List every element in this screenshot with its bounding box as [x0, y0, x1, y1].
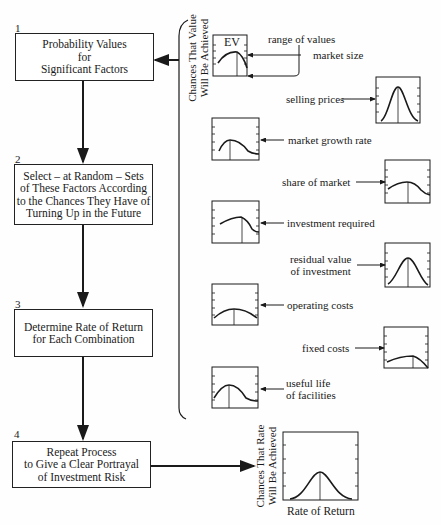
step-box-3: Determine Rate of Return for Each Combin…	[14, 309, 153, 357]
factor-label-operating-costs: operating costs	[287, 299, 353, 311]
factor-label-useful-life: useful life of facilities	[286, 377, 336, 401]
step-text-3: Determine Rate of Return for Each Combin…	[24, 321, 143, 346]
factor-label-selling-prices: selling prices	[286, 93, 344, 105]
factor-label-market-size: market size	[313, 49, 363, 61]
step-text-1: Probability Values for Significant Facto…	[41, 38, 128, 76]
factor-label-residual-value: residual value of investment	[290, 253, 351, 277]
factor-axis-label: Chances That Value Will Be Achieved	[187, 8, 211, 108]
step-text-2: Select – at Random – Sets of These Facto…	[17, 170, 151, 220]
factor-label-investment-required: investment required	[287, 217, 375, 229]
factor-label-share-of-market: share of market	[282, 176, 350, 188]
chart-share-of-market	[385, 160, 430, 203]
result-xlabel: Rate of Return	[287, 505, 355, 517]
factor-label-market-growth-rate: market growth rate	[288, 134, 372, 146]
chart-useful-life	[212, 367, 258, 408]
range-of-values-label: range of values	[268, 33, 335, 45]
chart-selling-prices	[376, 77, 420, 123]
ev-label: EV	[224, 36, 240, 48]
step-box-1: Probability Values for Significant Facto…	[15, 33, 154, 81]
factor-label-fixed-costs: fixed costs	[302, 342, 349, 354]
chart-fixed-costs	[384, 327, 428, 368]
result-ylabel: Chances That Rate Will Be Achieved	[255, 421, 279, 511]
step-number-4: 4	[14, 428, 20, 440]
step-text-4: Repeat Process to Give a Clear Portrayal…	[24, 446, 139, 484]
chart-investment-required	[212, 201, 259, 243]
risk-analysis-diagram: 1 2 3 4 Probability Values for Significa…	[0, 0, 441, 525]
chart-rate-of-return	[283, 432, 358, 500]
chart-operating-costs	[212, 284, 258, 325]
step-box-2: Select – at Random – Sets of These Facto…	[14, 164, 153, 225]
chart-market-growth-rate	[212, 118, 259, 160]
step-box-4: Repeat Process to Give a Clear Portrayal…	[12, 441, 151, 488]
chart-residual-value	[385, 243, 430, 287]
